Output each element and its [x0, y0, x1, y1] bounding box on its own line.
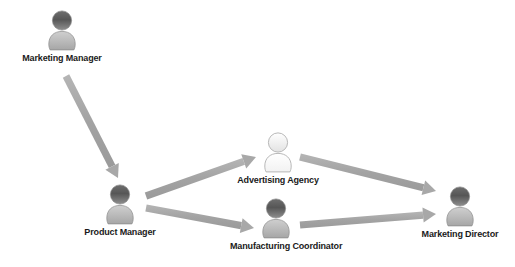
person-icon [256, 130, 300, 174]
person-icon [98, 182, 142, 226]
node-product-manager[interactable]: Product Manager [74, 182, 166, 237]
node-label: Advertising Agency [232, 175, 324, 185]
node-label: Product Manager [74, 227, 166, 237]
node-label: Manufacturing Coordinator [230, 241, 322, 251]
arrow-shaft [63, 74, 116, 168]
workflow-diagram: Marketing Manager Product Manager Advert… [0, 0, 515, 267]
node-marketing-director[interactable]: Marketing Director [414, 184, 506, 239]
person-icon [254, 196, 298, 240]
node-label: Marketing Director [414, 229, 506, 239]
node-manufacturing-coordinator[interactable]: Manufacturing Coordinator [230, 196, 322, 251]
node-label: Marketing Manager [16, 53, 108, 63]
node-advertising-agency[interactable]: Advertising Agency [232, 130, 324, 185]
person-icon [40, 8, 84, 52]
person-icon [438, 184, 482, 228]
node-marketing-manager[interactable]: Marketing Manager [16, 8, 108, 63]
